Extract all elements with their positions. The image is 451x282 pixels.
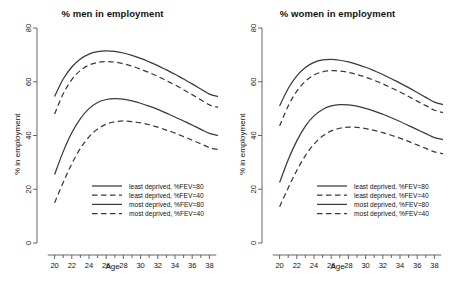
x-tick-label: 38 (205, 261, 213, 270)
data-line-1 (55, 51, 218, 97)
data-line-2 (280, 71, 443, 126)
x-tick-label: 32 (379, 261, 387, 270)
x-tick-label: 22 (293, 261, 301, 270)
data-line-2 (55, 62, 218, 114)
y-tick-label: 80 (24, 24, 33, 32)
x-tick-label: 34 (396, 261, 404, 270)
legend-label-4: most deprived, %FEV=40 (354, 210, 429, 218)
plot-area-women: 02040608020222426283032343638least depri… (225, 0, 450, 282)
x-tick-label: 26 (327, 261, 335, 270)
x-tick-label: 32 (154, 261, 162, 270)
legend-label-2: least deprived, %FEV=40 (129, 192, 204, 200)
panel-men: % men in employment Age % in employment … (0, 0, 225, 282)
y-tick-label: 60 (24, 78, 33, 86)
panel-women: % women in employment Age % in employmen… (225, 0, 450, 282)
legend-label-3: most deprived, %FEV=80 (129, 201, 204, 209)
legend-label-2: least deprived, %FEV=40 (354, 192, 429, 200)
data-line-3 (55, 99, 218, 175)
x-tick-label: 28 (119, 261, 127, 270)
x-tick-label: 36 (413, 261, 421, 270)
y-tick-label: 20 (24, 185, 33, 193)
x-tick-label: 38 (430, 261, 438, 270)
y-tick-label: 60 (249, 78, 258, 86)
x-tick-label: 24 (310, 261, 318, 270)
y-tick-label: 80 (249, 24, 258, 32)
x-tick-label: 36 (188, 261, 196, 270)
x-tick-label: 22 (68, 261, 76, 270)
x-tick-label: 30 (361, 261, 369, 270)
figure-canvas: % men in employment Age % in employment … (0, 0, 451, 282)
data-line-3 (280, 105, 443, 183)
x-tick-label: 30 (136, 261, 144, 270)
x-tick-label: 34 (171, 261, 179, 270)
x-tick-label: 24 (85, 261, 93, 270)
y-tick-label: 40 (24, 131, 33, 139)
x-tick-label: 28 (344, 261, 352, 270)
y-tick-label: 0 (249, 241, 258, 245)
legend-label-1: least deprived, %FEV=80 (354, 183, 429, 191)
y-tick-label: 0 (24, 241, 33, 245)
y-tick-label: 40 (249, 131, 258, 139)
legend-label-1: least deprived, %FEV=80 (129, 183, 204, 191)
data-line-4 (55, 121, 218, 203)
plot-area-men: 02040608020222426283032343638least depri… (0, 0, 225, 282)
y-tick-label: 20 (249, 185, 258, 193)
x-tick-label: 20 (50, 261, 58, 270)
legend-label-4: most deprived, %FEV=40 (129, 210, 204, 218)
x-tick-label: 20 (275, 261, 283, 270)
legend-label-3: most deprived, %FEV=80 (354, 201, 429, 209)
x-tick-label: 26 (102, 261, 110, 270)
